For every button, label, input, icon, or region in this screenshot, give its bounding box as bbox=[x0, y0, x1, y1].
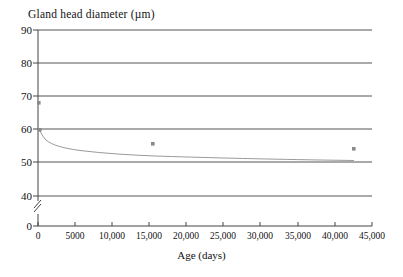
chart-container: Gland head diameter (µm) bbox=[0, 0, 403, 277]
x-axis bbox=[38, 222, 372, 226]
fitted-curve bbox=[39, 129, 354, 161]
data-points bbox=[37, 101, 356, 151]
x-axis-title: Age (days) bbox=[0, 249, 403, 261]
plot-area bbox=[0, 0, 403, 277]
gridlines bbox=[38, 30, 372, 196]
y-axis bbox=[33, 30, 38, 226]
y-axis-break-icon bbox=[34, 200, 41, 212]
